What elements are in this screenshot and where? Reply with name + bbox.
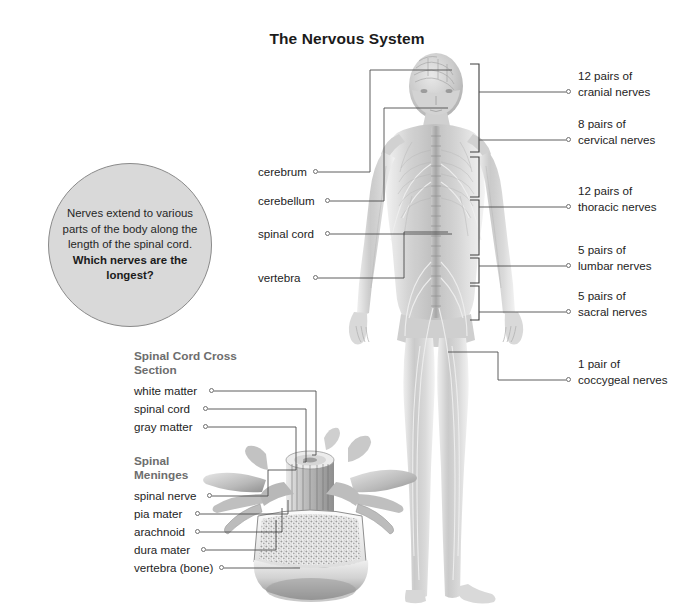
label-cerebellum: cerebellum xyxy=(258,194,315,208)
marker-spinal-cord-cross xyxy=(203,406,208,411)
marker-cerebrum xyxy=(313,169,318,174)
marker-arachnoid xyxy=(195,529,200,534)
label-dura-mater: dura mater xyxy=(134,543,190,557)
label-spinal-nerve: spinal nerve xyxy=(134,489,197,503)
label-sacral-nerves-line2: sacral nerves xyxy=(578,304,647,320)
marker-sacral-nerves xyxy=(566,309,571,314)
label-spinal-cord-figure: spinal cord xyxy=(258,227,314,241)
marker-spinal-nerve xyxy=(207,493,212,498)
label-white-matter: white matter xyxy=(134,384,197,398)
label-lumbar-nerves-line2: lumbar nerves xyxy=(578,258,651,274)
marker-cerebellum xyxy=(325,198,330,203)
label-coccygeal-nerves-line1: 1 pair of xyxy=(578,356,668,372)
label-cranial-nerves: 12 pairs of cranial nerves xyxy=(578,68,650,99)
label-thoracic-nerves-line2: thoracic nerves xyxy=(578,199,657,215)
marker-vertebra-figure xyxy=(313,275,318,280)
nervous-system-diagram: The Nervous System xyxy=(0,0,694,606)
vertebra-cross-section-illustration xyxy=(200,420,430,606)
label-sacral-nerves: 5 pairs of sacral nerves xyxy=(578,288,647,319)
marker-gray-matter xyxy=(203,424,208,429)
marker-vertebra-bone xyxy=(219,565,224,570)
label-coccygeal-nerves: 1 pair of coccygeal nerves xyxy=(578,356,668,387)
heading-spinal-meninges: Spinal Meninges xyxy=(134,455,188,482)
label-cranial-nerves-line1: 12 pairs of xyxy=(578,68,650,84)
marker-pia-mater xyxy=(195,511,200,516)
label-cranial-nerves-line2: cranial nerves xyxy=(578,84,650,100)
label-sacral-nerves-line1: 5 pairs of xyxy=(578,288,647,304)
marker-thoracic-nerves xyxy=(566,204,571,209)
label-thoracic-nerves-line1: 12 pairs of xyxy=(578,183,657,199)
marker-lumbar-nerves xyxy=(566,263,571,268)
label-gray-matter: gray matter xyxy=(134,420,193,434)
label-cerebrum: cerebrum xyxy=(258,165,307,179)
label-lumbar-nerves-line1: 5 pairs of xyxy=(578,242,651,258)
marker-cervical-nerves xyxy=(566,137,571,142)
heading-spinal-cord-cross-section: Spinal Cord Cross Section xyxy=(134,350,237,377)
label-arachnoid: arachnoid xyxy=(134,525,185,539)
full-body-nervous-system-illustration xyxy=(300,46,590,606)
marker-white-matter xyxy=(209,388,214,393)
marker-cranial-nerves xyxy=(566,89,571,94)
marker-coccygeal-nerves xyxy=(566,377,571,382)
label-cervical-nerves: 8 pairs of cervical nerves xyxy=(578,116,655,147)
label-cervical-nerves-line2: cervical nerves xyxy=(578,132,655,148)
label-vertebra-figure: vertebra xyxy=(258,271,301,285)
heading-cross-section-line1: Spinal Cord Cross xyxy=(134,350,237,364)
heading-cross-section-line2: Section xyxy=(134,364,237,378)
heading-meninges-line2: Meninges xyxy=(134,469,188,483)
callout-question-bubble: Nerves extend to various parts of the bo… xyxy=(48,163,212,327)
callout-question-text: Which nerves are the longest? xyxy=(59,253,201,284)
page-title: The Nervous System xyxy=(0,30,694,48)
label-vertebra-bone: vertebra (bone) xyxy=(134,561,213,575)
label-lumbar-nerves: 5 pairs of lumbar nerves xyxy=(578,242,651,273)
label-coccygeal-nerves-line2: coccygeal nerves xyxy=(578,372,668,388)
label-pia-mater: pia mater xyxy=(134,507,182,521)
label-spinal-cord-cross: spinal cord xyxy=(134,402,190,416)
marker-spinal-cord-figure xyxy=(325,231,330,236)
marker-dura-mater xyxy=(201,547,206,552)
heading-meninges-line1: Spinal xyxy=(134,455,188,469)
label-cervical-nerves-line1: 8 pairs of xyxy=(578,116,655,132)
callout-body-text: Nerves extend to various parts of the bo… xyxy=(59,206,201,253)
label-thoracic-nerves: 12 pairs of thoracic nerves xyxy=(578,183,657,214)
